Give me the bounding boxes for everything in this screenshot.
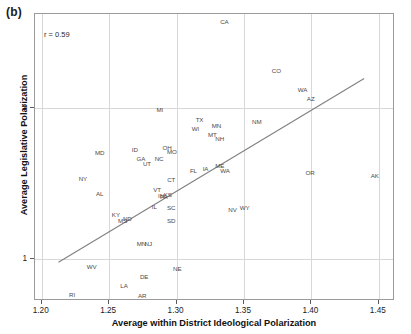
data-point-label: AR [138,293,146,299]
x-tick-mark [108,300,109,304]
data-point-label: AZ [307,96,315,102]
figure-root: (b) CACOWAAZMITXNMWIMNMTNHMDIDOHMOGAUTNC… [0,0,411,334]
panel-label: (b) [6,5,22,19]
x-tick-mark [176,300,177,304]
data-point-label: TX [196,117,204,123]
x-tick-mark [41,300,42,304]
x-tick-label: 1.30 [168,306,184,315]
x-tick-mark [310,300,311,304]
data-point-label: AL [96,191,103,197]
data-point-label: NC [155,156,164,162]
data-point-label: NY [79,176,87,182]
x-tick-label: 1.40 [302,306,318,315]
data-point-label: WV [87,264,97,270]
trendline-path [58,78,364,262]
data-point-label: OR [306,170,315,176]
data-point-label: SC [167,205,175,211]
data-point-label: AK [371,173,379,179]
data-point-label: IA [203,166,209,172]
data-point-label: MN [212,123,221,129]
data-point-label: WI [192,126,199,132]
data-point-label: RI [69,292,75,298]
data-point-label: MI [156,107,163,113]
y-axis-label: Average Legislative Polarization [19,35,29,255]
data-point-label: SD [167,218,175,224]
data-point-label: WA [220,168,230,174]
data-point-label: MO [167,149,177,155]
x-tick-label: 1.45 [370,306,386,315]
x-tick-mark [243,300,244,304]
data-point-label: UT [143,160,151,166]
data-point-label: ID [132,147,138,153]
data-point-label: NH [215,136,224,142]
data-point-label: ND [123,216,132,222]
data-point-label: NM [252,119,261,125]
data-point-label: IL [152,204,157,210]
data-point-label: LA [120,283,127,289]
plot-inner: CACOWAAZMITXNMWIMNMTNHMDIDOHMOGAUTNCFLIA… [35,14,393,299]
x-axis-label: Average within District Ideological Pola… [34,318,394,328]
data-point-label: DE [140,274,148,280]
data-point-label: NJ [145,241,152,247]
data-point-label: FL [190,168,197,174]
plot-area: CACOWAAZMITXNMWIMNMTNHMDIDOHMOGAUTNCFLIA… [34,13,394,300]
x-tick-mark [378,300,379,304]
data-point-label: WY [240,205,250,211]
data-point-label: NE [173,266,181,272]
x-tick-label: 1.20 [33,306,49,315]
data-point-label: CT [167,177,175,183]
correlation-annotation: r = 0.59 [44,30,70,39]
data-point-label: CO [272,68,281,74]
data-point-label: CA [220,19,228,25]
data-point-label: NV [228,207,236,213]
x-tick-label: 1.35 [235,306,251,315]
y-tick-mark [30,258,34,259]
x-tick-label: 1.25 [100,306,116,315]
data-point-label: WA [298,86,308,92]
data-point-label: MD [95,150,104,156]
data-point-label: PA [160,194,168,200]
trendline [35,14,393,299]
y-tick-mark [30,107,34,108]
